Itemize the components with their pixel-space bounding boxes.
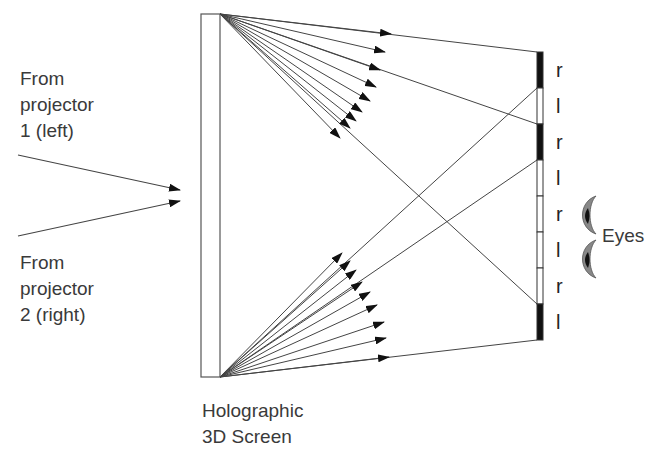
label-line: 2 (right)	[20, 302, 94, 328]
eye-icon-upper	[583, 196, 597, 234]
eyes-label: Eyes	[602, 223, 644, 249]
label-line: projector	[20, 92, 94, 118]
optics-diagram	[0, 0, 665, 456]
barrier-label: r	[556, 60, 563, 80]
bottom-ray-fan	[220, 88, 537, 377]
holographic-screen	[201, 14, 220, 377]
barrier-label: r	[556, 132, 563, 152]
label-line: 3D Screen	[202, 424, 303, 450]
parallax-barrier	[537, 52, 543, 340]
barrier-label: l	[556, 168, 560, 188]
projector-2-label: From projector 2 (right)	[20, 250, 94, 328]
projector-rays	[18, 155, 180, 236]
barrier-label: l	[556, 312, 560, 332]
label-line: From	[20, 66, 94, 92]
label-line: Holographic	[202, 398, 303, 424]
barrier-label: l	[556, 240, 560, 260]
top-ray-fan	[220, 14, 537, 304]
label-line: 1 (left)	[20, 118, 94, 144]
label-line: projector	[20, 276, 94, 302]
projector-1-label: From projector 1 (left)	[20, 66, 94, 144]
screen-label: Holographic 3D Screen	[202, 398, 303, 450]
eye-icon-lower	[583, 240, 597, 278]
barrier-label: r	[556, 276, 563, 296]
barrier-label: r	[556, 204, 563, 224]
barrier-label: l	[556, 96, 560, 116]
label-line: From	[20, 250, 94, 276]
